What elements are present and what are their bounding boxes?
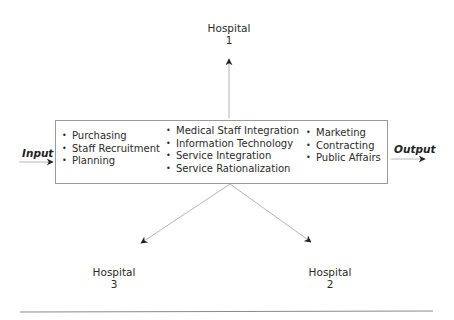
- list-item: Planning: [62, 155, 160, 168]
- hospital-3-name: Hospital: [93, 266, 136, 278]
- list-item: Information Technology: [166, 138, 299, 151]
- list-item: Service Integration: [166, 150, 299, 163]
- arrow-to-hospital-2: [230, 184, 311, 242]
- hospital-2-name: Hospital: [309, 266, 352, 278]
- list-item: Medical Staff Integration: [166, 125, 299, 138]
- list-item: Staff Recruitment: [62, 143, 160, 156]
- input-label: Input: [22, 147, 53, 159]
- column-3: Marketing Contracting Public Affairs: [306, 127, 381, 165]
- hospital-2-number: 2: [305, 278, 355, 290]
- arrow-to-hospital-3: [141, 184, 230, 243]
- bottom-rule: [20, 311, 433, 312]
- hospital-1-number: 1: [204, 34, 254, 46]
- list-item: Purchasing: [62, 130, 160, 143]
- hospital-1-name: Hospital: [208, 22, 251, 34]
- column-1: Purchasing Staff Recruitment Planning: [62, 130, 160, 168]
- list-item: Marketing: [306, 127, 381, 140]
- hospital-3-number: 3: [89, 278, 139, 290]
- hospital-3-label: Hospital 3: [89, 266, 139, 290]
- list-item: Contracting: [306, 140, 381, 153]
- list-item: Public Affairs: [306, 152, 381, 165]
- output-label: Output: [394, 143, 435, 155]
- shared-services-box: Purchasing Staff Recruitment Planning Me…: [55, 120, 388, 184]
- hospital-1-label: Hospital 1: [204, 22, 254, 46]
- column-2: Medical Staff Integration Information Te…: [166, 125, 299, 175]
- list-item: Service Rationalization: [166, 163, 299, 176]
- hospital-2-label: Hospital 2: [305, 266, 355, 290]
